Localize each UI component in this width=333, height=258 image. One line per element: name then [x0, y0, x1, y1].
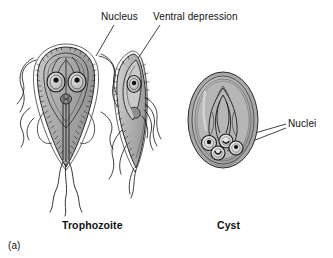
cyst — [188, 72, 258, 168]
median-body — [61, 94, 72, 104]
cyst-nucleus-4 — [229, 141, 243, 155]
nucleus-left — [47, 72, 65, 92]
label-cyst: Cyst — [217, 220, 240, 231]
panel-identifier: (a) — [8, 240, 21, 251]
trophozoite-lateral-view — [109, 51, 161, 198]
trophozoite-frontal-view — [17, 44, 120, 216]
cyst-karyosome-4 — [234, 145, 238, 149]
label-nuclei: Nuclei — [288, 118, 316, 129]
nucleus-right — [68, 72, 86, 92]
karyosome-left — [53, 77, 58, 82]
cyst-karyosome-1 — [207, 140, 211, 144]
label-trophozoite: Trophozoite — [62, 220, 123, 231]
label-ventral-depression: Ventral depression — [153, 11, 238, 22]
giardia-figure-panel: Nucleus Ventral depression Nuclei Tropho… — [0, 0, 333, 258]
lateral-karyosome — [132, 81, 136, 85]
label-nucleus: Nucleus — [101, 11, 138, 22]
flagella-anterolateral-left — [17, 58, 36, 147]
lateral-nucleus — [127, 76, 141, 93]
leader-line-nucleus — [96, 25, 114, 56]
giardia-illustration — [0, 0, 333, 258]
karyosome-right — [74, 77, 79, 82]
cyst-nucleus-3 — [211, 146, 225, 160]
